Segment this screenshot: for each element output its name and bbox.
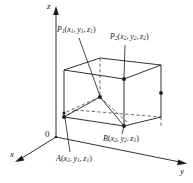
dot-right-mid bbox=[159, 91, 163, 95]
dot-a bbox=[62, 115, 66, 119]
x-axis-arrowhead bbox=[15, 156, 24, 162]
origin-label: 0 bbox=[45, 130, 50, 139]
leader-a bbox=[65, 118, 70, 152]
top-edge-right-front bbox=[124, 65, 161, 79]
geometry-diagram bbox=[0, 0, 193, 183]
leader-p1 bbox=[79, 38, 100, 96]
top-edge-left-back bbox=[64, 58, 100, 70]
z-axis-label: z bbox=[47, 2, 51, 11]
leader-p2 bbox=[124, 45, 125, 78]
segment-p1-to-b bbox=[100, 97, 124, 126]
box-hidden-edges bbox=[64, 58, 161, 126]
p2-comma-2: , bbox=[136, 32, 138, 41]
dot-b bbox=[122, 124, 126, 128]
dot-p2 bbox=[122, 77, 126, 81]
p1-close-paren: ) bbox=[93, 25, 96, 34]
b-comma-2: , bbox=[127, 134, 129, 143]
point-label-a: A(x2, y1, z1) bbox=[56, 155, 92, 164]
p2-comma-1: , bbox=[127, 32, 129, 41]
p2-close-paren: ) bbox=[146, 32, 149, 41]
a-comma-1: , bbox=[70, 154, 72, 163]
y-axis-label: y bbox=[180, 167, 184, 176]
bottom-edge-left-front bbox=[64, 117, 124, 126]
box-visible-edges bbox=[64, 58, 161, 126]
point-label-p2: P2(x2, y2, z2) bbox=[110, 33, 149, 42]
segment-p1-to-a bbox=[64, 97, 100, 117]
dot-p1 bbox=[98, 95, 102, 99]
b-comma-1: , bbox=[117, 134, 119, 143]
bottom-edge-front-right bbox=[124, 117, 161, 126]
point-label-b: B(x2, y2, z1) bbox=[103, 135, 139, 144]
x-axis-label: x bbox=[10, 150, 14, 159]
x-axis-line bbox=[22, 137, 56, 158]
dot-origin-marker bbox=[55, 136, 58, 139]
top-edge-back-right bbox=[100, 58, 161, 65]
a-comma-2: , bbox=[80, 154, 82, 163]
b-close-paren: ) bbox=[136, 134, 139, 143]
figure-container: z y x 0 P1(x1, y1, z1) P2(x2, y2, z2) B(… bbox=[0, 0, 193, 183]
z-axis-arrowhead bbox=[53, 6, 59, 15]
point-label-p1: P1(x1, y1, z1) bbox=[57, 26, 96, 35]
y-axis-arrowhead bbox=[177, 160, 187, 166]
p1-comma-1: , bbox=[74, 25, 76, 34]
p1-comma-2: , bbox=[83, 25, 85, 34]
a-close-paren: ) bbox=[89, 154, 92, 163]
dot-a-upper bbox=[63, 112, 66, 115]
top-edge-front-left bbox=[64, 70, 124, 79]
